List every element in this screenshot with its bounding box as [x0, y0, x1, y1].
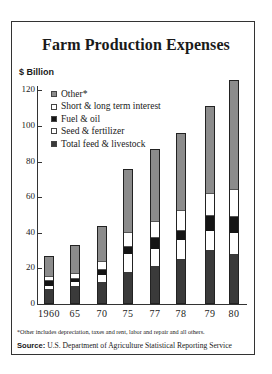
legend-swatch-seed: [51, 128, 57, 134]
bar-75: [123, 169, 133, 304]
chart-legend: Other* Short & long term interest Fuel &…: [51, 88, 161, 150]
legend-item-fuel: Fuel & oil: [51, 113, 161, 125]
bar-segment-seed: [151, 249, 159, 267]
bar-segment-other: [45, 257, 53, 277]
bar-segment-feed: [206, 250, 214, 303]
bar-segment-fuel: [124, 247, 132, 254]
bar-segment-feed: [124, 272, 132, 303]
bar-segment-feed: [177, 259, 185, 303]
bar-segment-seed: [206, 231, 214, 250]
x-tick-label: 75: [113, 308, 143, 319]
y-tick-label: 60: [19, 191, 35, 201]
bar-segment-interest: [177, 211, 185, 230]
source-label: Source:: [17, 341, 45, 350]
y-tick-label: 100: [19, 120, 35, 130]
bar-segment-other: [124, 170, 132, 233]
y-tick: [37, 126, 42, 127]
x-tick-label: 78: [166, 308, 196, 319]
bar-77: [150, 149, 160, 304]
y-tick: [37, 162, 42, 163]
y-tick-label: 0: [19, 298, 35, 308]
bar-segment-feed: [71, 286, 79, 303]
bar-segment-seed: [177, 240, 185, 259]
bar-segment-feed: [230, 254, 238, 303]
y-tick: [37, 90, 42, 91]
bar-segment-seed: [230, 233, 238, 254]
footnote: *Other includes depreciation, taxes and …: [17, 328, 257, 335]
bar-segment-other: [98, 227, 106, 262]
bar-segment-interest: [124, 233, 132, 247]
bar-segment-other: [177, 134, 185, 211]
chart-title: Farm Production Expenses: [0, 36, 272, 54]
bar-segment-interest: [230, 190, 238, 216]
y-axis-label: $ Billion: [19, 67, 54, 77]
bar-78: [176, 133, 186, 304]
bar-segment-fuel: [177, 231, 185, 240]
bar-segment-feed: [45, 289, 53, 303]
bar-segment-feed: [151, 266, 159, 303]
legend-swatch-interest: [51, 104, 57, 110]
y-tick-label: 20: [19, 262, 35, 272]
legend-item-other: Other*: [51, 88, 161, 100]
source-line: Source: U.S. Department of Agriculture S…: [17, 341, 232, 350]
y-tick: [37, 304, 42, 305]
y-tick: [37, 233, 42, 234]
bar-segment-other: [230, 81, 238, 190]
bar-segment-fuel: [206, 216, 214, 230]
y-axis-line: [37, 86, 38, 305]
bar-segment-other: [71, 246, 79, 274]
bar-segment-interest: [206, 194, 214, 217]
bar-80: [229, 80, 239, 304]
bar-70: [97, 226, 107, 304]
bar-segment-other: [206, 107, 214, 194]
y-tick-label: 80: [19, 156, 35, 166]
bar-segment-interest: [151, 222, 159, 238]
legend-item-feed: Total feed & livestock: [51, 138, 161, 150]
y-tick-label: 40: [19, 227, 35, 237]
bar-79: [205, 106, 215, 304]
bar-65: [70, 245, 80, 304]
legend-swatch-other: [51, 91, 57, 97]
y-tick-label: 120: [19, 84, 35, 94]
bar-segment-seed: [98, 275, 106, 282]
legend-swatch-feed: [51, 141, 57, 147]
y-tick: [37, 268, 42, 269]
source-text: U.S. Department of Agriculture Statistic…: [47, 341, 232, 350]
bar-segment-fuel: [230, 217, 238, 233]
x-tick-label: 80: [219, 308, 249, 319]
legend-swatch-fuel: [51, 116, 57, 122]
bar-segment-feed: [98, 282, 106, 303]
bar-segment-seed: [124, 254, 132, 272]
legend-item-interest: Short & long term interest: [51, 100, 161, 112]
x-axis-line: [37, 304, 247, 305]
y-tick: [37, 197, 42, 198]
bar-segment-interest: [98, 262, 106, 271]
bar-segment-other: [151, 150, 159, 222]
bar-1960: [44, 256, 54, 304]
bar-segment-fuel: [151, 238, 159, 249]
x-tick-label: 65: [60, 308, 90, 319]
legend-item-seed: Seed & fertilizer: [51, 125, 161, 137]
